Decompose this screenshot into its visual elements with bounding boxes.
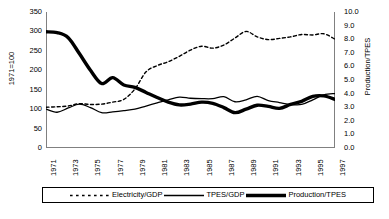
x-tick-1989: 1989 <box>250 159 258 176</box>
legend-swatch-icon <box>245 191 287 200</box>
y-tick-left-300: 300 <box>16 27 42 35</box>
y-tick-right-6.0: 6.0 <box>344 62 374 70</box>
y-tick-left-350: 350 <box>16 8 42 16</box>
x-tick-1973: 1973 <box>72 159 80 176</box>
y-tick-left-100: 100 <box>16 105 42 113</box>
legend-label: TPES/GDP <box>205 191 245 199</box>
x-tick-1979: 1979 <box>139 159 147 176</box>
legend-label: Electricity/GDP <box>111 191 163 199</box>
legend-entry-electricity-gdp[interactable]: Electricity/GDP <box>69 188 163 202</box>
legend-entry-production-tpes[interactable]: Production/TPES <box>245 188 347 202</box>
legend-swatch-icon <box>163 191 205 200</box>
y-tick-left-50: 50 <box>16 125 42 133</box>
y-tick-right-8.0: 8.0 <box>344 35 374 43</box>
y-tick-right-3.0: 3.0 <box>344 103 374 111</box>
x-tick-1981: 1981 <box>161 159 169 176</box>
y-tick-right-0.0: 0.0 <box>344 144 374 152</box>
plot-svg <box>46 12 335 148</box>
y-tick-left-0: 0 <box>16 144 42 152</box>
x-tick-1995: 1995 <box>317 159 325 176</box>
y-tick-right-9.0: 9.0 <box>344 22 374 30</box>
chart-legend: Electricity/GDPTPES/GDPProduction/TPES <box>42 187 374 203</box>
y-tick-right-4.0: 4.0 <box>344 90 374 98</box>
x-tick-1997: 1997 <box>339 159 347 176</box>
x-tick-1983: 1983 <box>183 159 191 176</box>
y-tick-right-1.0: 1.0 <box>344 130 374 138</box>
y-tick-left-250: 250 <box>16 47 42 55</box>
y-tick-right-10.0: 10.0 <box>344 8 374 16</box>
x-tick-1993: 1993 <box>295 159 303 176</box>
legend-swatch-icon <box>69 191 111 200</box>
legend-entry-tpes-gdp[interactable]: TPES/GDP <box>163 188 245 202</box>
x-tick-1991: 1991 <box>272 159 280 176</box>
plot-area <box>46 12 335 148</box>
y-axis-left-title: 1971=100 <box>7 37 16 101</box>
series-line-production-tpes <box>46 32 335 113</box>
y-tick-right-7.0: 7.0 <box>344 49 374 57</box>
y-tick-left-150: 150 <box>16 86 42 94</box>
chart-figure: 1971=100 Production/TPES 050100150200250… <box>0 0 389 219</box>
y-tick-right-5.0: 5.0 <box>344 76 374 84</box>
x-tick-1971: 1971 <box>50 159 58 176</box>
x-tick-1977: 1977 <box>117 159 125 176</box>
y-tick-right-2.0: 2.0 <box>344 117 374 125</box>
x-tick-1975: 1975 <box>94 159 102 176</box>
x-tick-1985: 1985 <box>206 159 214 176</box>
y-tick-left-200: 200 <box>16 66 42 74</box>
x-tick-1987: 1987 <box>228 159 236 176</box>
legend-label: Production/TPES <box>287 191 347 199</box>
